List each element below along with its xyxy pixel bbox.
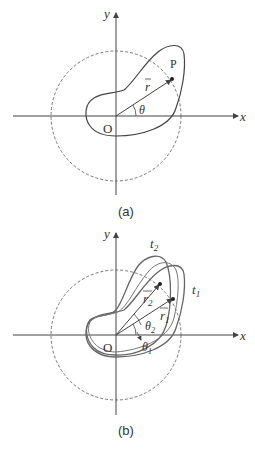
origin-label: O (103, 340, 112, 355)
angle-label-theta1: θ1 (142, 340, 152, 356)
angle-arc-1 (133, 324, 136, 335)
x-axis-label: x (239, 328, 246, 343)
diagram-canvas: y x O P r θ (a) y x O t2 t1 r2 r1 θ2 θ1 … (0, 0, 255, 454)
curve-label-t1: t1 (192, 282, 200, 299)
figure-a: y x O P r θ (a) (13, 6, 246, 219)
curve-label-t2: t2 (150, 236, 159, 253)
angle-label-theta2: θ2 (145, 319, 155, 335)
caption-a: (a) (118, 204, 134, 219)
rotation-arrow (137, 332, 141, 340)
y-axis-label: y (102, 6, 110, 21)
angle-label: θ (139, 103, 145, 117)
angle-arc (133, 105, 136, 116)
point-label: P (170, 57, 177, 71)
origin-label: O (103, 121, 112, 136)
point-2 (158, 282, 162, 286)
caption-b: (b) (118, 423, 134, 438)
y-axis-label: y (102, 226, 110, 241)
point-1 (171, 297, 175, 301)
point-p (170, 77, 174, 81)
vector-label-r1: r1 (160, 308, 170, 325)
x-axis-label: x (239, 109, 246, 124)
figure-b: y x O t2 t1 r2 r1 θ2 θ1 (b) (13, 226, 246, 438)
vector-label: r (145, 79, 151, 94)
